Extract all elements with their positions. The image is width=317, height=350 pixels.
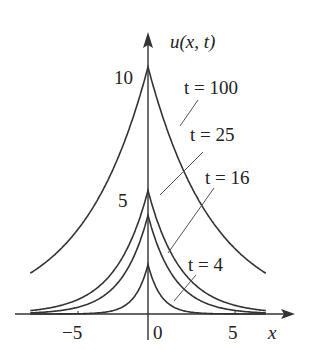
- x-axis-label: x: [267, 322, 277, 343]
- label-t16: t = 16: [205, 167, 250, 188]
- leader-t25: [160, 152, 203, 195]
- y-tick-5: 5: [118, 190, 128, 211]
- x-tick-minus5: −5: [62, 322, 82, 343]
- leader-t16: [168, 188, 214, 253]
- y-tick-10: 10: [114, 67, 133, 88]
- leader-t100: [180, 100, 198, 126]
- plot: −5 0 5 x 5 10 u(x, t) t = 100 t = 25 t =…: [0, 0, 317, 350]
- label-t100: t = 100: [184, 77, 238, 98]
- x-tick-0: 0: [153, 322, 163, 343]
- x-tick-5: 5: [228, 322, 238, 343]
- label-t4: t = 4: [188, 254, 223, 275]
- label-t25: t = 25: [190, 124, 235, 145]
- y-axis-label: u(x, t): [170, 31, 215, 53]
